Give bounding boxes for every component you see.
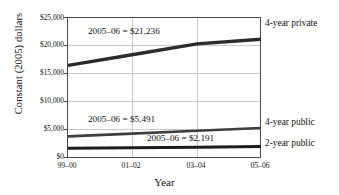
series-label-2-year-public: 2-year public (265, 138, 315, 148)
x-tick-label-01-02: 01–02 (107, 161, 155, 170)
y-tick-label-0: $0 (2, 152, 64, 161)
x-tick-label-99-00: 99–00 (43, 161, 91, 170)
series-label-4-year-public: 4-year public (265, 117, 315, 127)
series-label-4-year-private: 4-year private (265, 18, 317, 28)
y-tick-label-20000: $20,000 (2, 40, 64, 49)
y-tick-label-5000: $5,000 (2, 124, 64, 133)
x-axis-title: Year (62, 176, 267, 188)
y-tick-label-25000: $25,000 (2, 13, 64, 22)
line-2-year-public (68, 147, 261, 149)
annotation-4-year-private: 2005–06 = $21,236 (88, 26, 160, 36)
annotation-2-year-public: 2005–06 = $2,191 (147, 133, 214, 143)
x-tick-label-05-06: 05–06 (236, 161, 284, 170)
line-4-year-private (68, 39, 261, 65)
tuition-line-chart: Constant (2005) dollars $25,000 $20,000 … (0, 0, 339, 195)
x-tick-label-03-04: 03–04 (172, 161, 220, 170)
y-tick-label-10000: $10,000 (2, 96, 64, 105)
y-tick-label-15000: $15,000 (2, 68, 64, 77)
annotation-4-year-public: 2005–06 = $5,491 (88, 114, 155, 124)
